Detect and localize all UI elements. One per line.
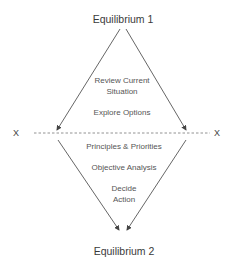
step-label-line1: Decide [112, 184, 137, 195]
step-decide-action: Decide Action [112, 184, 137, 205]
diagram-lines [0, 0, 232, 265]
step-label-line1: Review Current [94, 76, 149, 87]
step-explore-options: Explore Options [94, 108, 151, 119]
step-principles-priorities: Principles & Priorities [86, 142, 162, 153]
step-label-line2: Situation [94, 87, 149, 98]
step-objective-analysis: Objective Analysis [92, 163, 157, 174]
arrow-bottom-left [58, 140, 119, 230]
node-equilibrium-1: Equilibrium 1 [93, 13, 154, 25]
axis-marker-right: X [214, 128, 220, 138]
axis-marker-left: X [13, 128, 19, 138]
step-label-line2: Action [112, 195, 137, 206]
node-equilibrium-2: Equilibrium 2 [94, 245, 155, 257]
step-review-current-situation: Review Current Situation [94, 76, 149, 97]
